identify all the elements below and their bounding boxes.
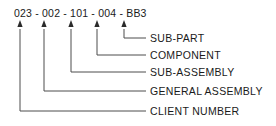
callout-label-component: COMPONENT (150, 50, 221, 61)
part-number-breakdown-diagram: 023 - 002 - 101 - 004 - BB3 SUB-PART (0, 0, 276, 126)
leader-line-sub-assembly (68, 20, 146, 72)
callout-label-general-assembly: GENERAL ASSEMBLY (150, 86, 263, 97)
callout-label-client-number: CLIENT NUMBER (150, 106, 239, 117)
callout-label-sub-part: SUB-PART (150, 33, 205, 44)
leader-line-client-number (17, 20, 146, 111)
leader-line-sub-part (121, 20, 146, 38)
callout-label-sub-assembly: SUB-ASSEMBLY (150, 67, 235, 78)
